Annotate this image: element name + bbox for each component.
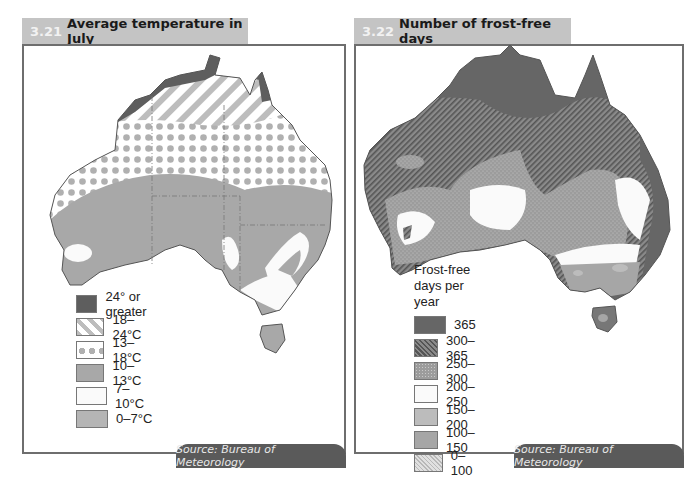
legend-title-line1: Frost-free — [414, 262, 483, 278]
swatch-solid-light — [414, 408, 438, 426]
legend-title-line2: days per year — [414, 278, 483, 310]
swatch-solid-dark — [414, 316, 446, 334]
swatch-stipple — [414, 362, 438, 380]
swatch-light-hatch — [414, 454, 443, 472]
australia-frost-map — [0, 0, 694, 490]
legend-label: 0–100 — [451, 448, 483, 478]
source-caption: Source: Bureau of Meteorology — [514, 444, 684, 468]
legend-label: 365 — [454, 317, 476, 332]
frost-legend: Frost-free days per year 365 300–365 250… — [414, 262, 483, 474]
legend-title: Frost-free days per year — [414, 262, 483, 310]
swatch-solid-white — [414, 385, 438, 403]
swatch-solid-mid — [414, 431, 438, 449]
swatch-dense-hatch — [414, 339, 438, 357]
